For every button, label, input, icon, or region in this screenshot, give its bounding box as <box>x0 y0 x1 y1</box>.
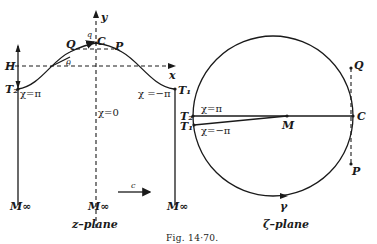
zeta-point-c <box>351 114 354 117</box>
label-x: x <box>168 69 176 82</box>
gamma-direction-arrow-icon <box>280 193 288 199</box>
label-c: C <box>97 35 106 48</box>
h-arrow-up-icon <box>16 44 21 52</box>
zeta-plane-diagram: Q C T₂ T₁ χ=π χ=−π M P γ ζ–plane <box>180 36 366 231</box>
label-m-right: M∞ <box>166 200 188 213</box>
point-t1 <box>173 87 176 90</box>
label-c-velocity: c <box>131 181 136 190</box>
figure-caption: Fig. 14·70. <box>166 233 219 243</box>
label-q: q <box>87 30 92 39</box>
label-m-center: M∞ <box>87 200 109 213</box>
label-theta: θ <box>66 59 71 68</box>
zeta-plane-caption: ζ–plane <box>263 218 309 231</box>
zeta-label-m: M <box>281 119 295 132</box>
label-chi-pi: χ=π <box>20 88 41 99</box>
zeta-label-gamma: γ <box>280 200 288 213</box>
label-chi-zero: χ=0 <box>98 107 119 118</box>
z-plane-diagram: y x q C Q P θ H T₂ T₁ χ=π χ =−π χ=0 M∞ M… <box>4 10 191 231</box>
zeta-label-chi-pi: χ=π <box>201 103 222 114</box>
zeta-point-q <box>349 66 352 69</box>
t1-m-line <box>194 116 287 125</box>
zeta-point-m <box>285 114 288 117</box>
label-h: H <box>4 60 16 73</box>
label-m-left: M∞ <box>9 200 31 213</box>
label-chi-minus-pi: χ =−π <box>138 88 171 99</box>
zeta-label-chi-minus-pi: χ=−π <box>201 125 231 136</box>
figure-canvas: y x q C Q P θ H T₂ T₁ χ=π χ =−π χ=0 M∞ M… <box>0 0 377 244</box>
zeta-label-q: Q <box>354 59 364 72</box>
zeta-label-t1: T₁ <box>180 120 193 133</box>
label-y: y <box>100 11 109 24</box>
zeta-label-p: P <box>351 165 361 178</box>
y-axis-arrow-icon <box>93 10 99 18</box>
label-q-point: Q <box>66 38 76 51</box>
label-t1: T₁ <box>178 84 191 97</box>
zeta-label-c: C <box>357 110 366 123</box>
label-p: P <box>114 40 124 53</box>
z-plane-caption: z–plane <box>71 218 118 231</box>
label-t2: T₂ <box>5 83 18 96</box>
